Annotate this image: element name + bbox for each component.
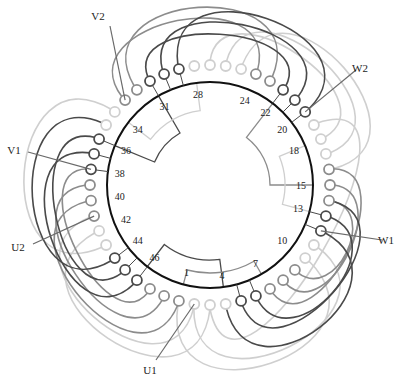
slot-terminal-43: [101, 240, 111, 250]
slot-number-label: 4: [219, 270, 224, 281]
slot-terminal-16: [324, 164, 334, 174]
lead-label-u2: U2: [11, 241, 24, 253]
slot-number-label: 7: [253, 258, 258, 269]
winding-diagram: 14710131518202224283134363840424446 V2W2…: [0, 0, 404, 392]
slot-number-label: 22: [260, 107, 270, 118]
slot-terminal-33: [120, 95, 130, 105]
slot-terminal-27: [205, 60, 215, 70]
lead-label-u1: U1: [143, 364, 156, 376]
lead-label-w1: W1: [378, 234, 394, 246]
coil-arc: [65, 233, 210, 357]
slot-terminal-28: [189, 61, 199, 71]
slot-number-label: 13: [293, 203, 303, 214]
slot-number-label: 28: [193, 89, 203, 100]
slot-terminal-31: [145, 76, 155, 86]
slot-terminal-44: [110, 253, 120, 263]
winding-diagram-canvas: 14710131518202224283134363840424446 V2W2…: [0, 0, 404, 392]
slot-number-label: 1: [184, 267, 189, 278]
slot-terminal-7: [265, 284, 275, 294]
slot-terminal-21: [290, 95, 300, 105]
slot-terminal-46: [132, 275, 142, 285]
slot-terminal-6: [251, 291, 261, 301]
slot-terminal-22: [278, 85, 288, 95]
slot-number-label: 46: [150, 252, 160, 263]
coil-arc: [210, 119, 360, 339]
slot-terminal-25: [236, 64, 246, 74]
slot-terminal-9: [290, 265, 300, 275]
slot-terminal-34: [110, 107, 120, 117]
lead-label-w2: W2: [352, 62, 368, 74]
slot-terminal-15: [325, 180, 335, 190]
coil-arc: [194, 247, 340, 359]
slot-number-label: 20: [277, 124, 287, 135]
slot-terminal-30: [159, 69, 169, 79]
slot-terminal-45: [120, 265, 130, 275]
slot-terminal-10: [300, 253, 310, 263]
slot-number-label: 40: [115, 191, 125, 202]
slot-terminal-24: [251, 69, 261, 79]
slot-terminal-37: [89, 149, 99, 159]
slot-number-label: 44: [133, 235, 143, 246]
slot-terminal-35: [101, 120, 111, 130]
slot-terminal-40: [86, 196, 96, 206]
slot-terminal-17: [321, 149, 331, 159]
slot-number-label: 31: [160, 101, 170, 112]
slot-number-label: 15: [296, 180, 306, 191]
slot-terminal-4: [221, 299, 231, 309]
slot-terminal-26: [221, 61, 231, 71]
slot-terminal-36: [94, 134, 104, 144]
lead-line-w2: [305, 70, 356, 112]
slot-terminal-14: [324, 196, 334, 206]
slot-terminal-19: [309, 120, 319, 130]
slot-terminal-39: [85, 180, 95, 190]
slot-number-label: 34: [133, 124, 143, 135]
slot-terminal-8: [278, 275, 288, 285]
slot-terminal-29: [174, 64, 184, 74]
slot-terminal-23: [265, 76, 275, 86]
slot-terminal-48: [159, 291, 169, 301]
slot-terminal-32: [132, 85, 142, 95]
slot-number-label: 10: [277, 235, 287, 246]
slot-number-label: 36: [121, 145, 131, 156]
slot-number-label: 38: [115, 168, 125, 179]
slot-terminal-18: [316, 134, 326, 144]
lead-label-v2: V2: [91, 10, 104, 22]
slot-terminal-5: [236, 296, 246, 306]
slot-terminal-1: [174, 296, 184, 306]
slot-terminal-13: [321, 211, 331, 221]
slot-terminal-47: [145, 284, 155, 294]
lead-label-v1: V1: [7, 144, 20, 156]
slot-number-label: 24: [240, 95, 250, 106]
slot-terminal-11: [309, 240, 319, 250]
slot-terminal-42: [94, 226, 104, 236]
slot-terminal-3: [205, 300, 215, 310]
slot-number-label: 18: [289, 145, 299, 156]
slot-number-label: 42: [121, 214, 131, 225]
